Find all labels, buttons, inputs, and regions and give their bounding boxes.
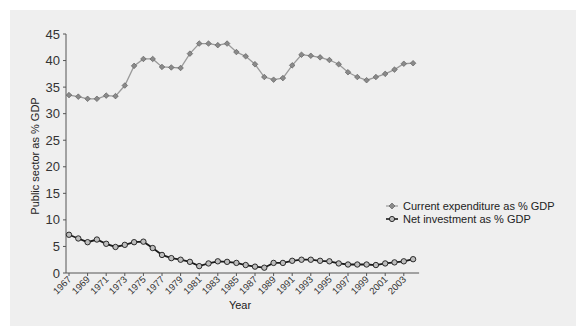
data-point xyxy=(224,259,229,264)
x-tick-label: 1973 xyxy=(106,274,129,297)
data-point xyxy=(113,244,118,249)
data-point xyxy=(410,256,415,261)
data-point xyxy=(104,241,109,246)
x-tick-label: 1995 xyxy=(311,274,334,297)
data-point xyxy=(103,93,109,99)
x-tick-label: 2001 xyxy=(367,274,390,297)
data-point xyxy=(243,262,248,267)
data-point xyxy=(299,257,304,262)
data-point xyxy=(215,259,220,264)
x-tick-label: 1999 xyxy=(348,274,371,297)
data-point xyxy=(410,60,416,66)
data-point xyxy=(178,257,183,262)
x-tick-label: 1979 xyxy=(162,274,185,297)
data-point xyxy=(169,255,174,260)
data-point xyxy=(271,260,276,265)
x-axis-title: Year xyxy=(229,299,252,311)
x-tick-label: 1993 xyxy=(292,274,315,297)
data-point xyxy=(150,245,155,250)
data-point xyxy=(355,74,361,80)
data-point xyxy=(271,77,277,83)
data-point xyxy=(141,239,146,244)
data-point xyxy=(159,252,164,257)
y-tick-label: 30 xyxy=(46,106,60,121)
legend: Current expenditure as % GDP Net investm… xyxy=(386,200,555,225)
data-point xyxy=(364,262,369,267)
data-point xyxy=(252,264,257,269)
y-tick-label: 0 xyxy=(53,266,60,281)
x-tick-label: 1987 xyxy=(237,274,260,297)
data-point xyxy=(308,53,314,59)
data-point xyxy=(85,239,90,244)
x-axis: 1967196919711973197519771979198119831985… xyxy=(51,273,419,296)
data-point xyxy=(206,261,211,266)
x-tick-label: 1983 xyxy=(199,274,222,297)
x-tick-label: 1989 xyxy=(255,274,278,297)
data-point xyxy=(215,42,221,48)
circle-marker-icon xyxy=(389,216,394,221)
data-point xyxy=(373,74,379,80)
data-point xyxy=(94,237,99,242)
y-tick-label: 35 xyxy=(46,80,60,95)
diamond-marker-icon xyxy=(389,203,395,209)
data-point xyxy=(131,239,136,244)
y-tick-label: 25 xyxy=(46,133,60,148)
data-point xyxy=(327,259,332,264)
x-tick-label: 1991 xyxy=(274,274,297,297)
series-current-expenditure xyxy=(66,41,416,102)
data-point xyxy=(197,263,202,268)
data-point xyxy=(364,77,370,83)
data-point xyxy=(336,261,341,266)
data-point xyxy=(234,260,239,265)
data-point xyxy=(187,259,192,264)
x-tick-label: 1977 xyxy=(144,274,167,297)
y-tick-label: 10 xyxy=(46,212,60,227)
y-tick-label: 5 xyxy=(53,239,60,254)
data-point xyxy=(383,261,388,266)
legend-label-current-expenditure: Current expenditure as % GDP xyxy=(403,200,555,212)
x-tick-label: 2003 xyxy=(385,274,408,297)
y-tick-label: 15 xyxy=(46,186,60,201)
y-tick-label: 20 xyxy=(46,159,60,174)
data-point xyxy=(290,258,295,263)
x-tick-label: 1969 xyxy=(69,274,92,297)
legend-label-net-investment: Net investment as % GDP xyxy=(403,213,531,225)
data-point xyxy=(382,71,388,77)
line-chart: 051015202530354045 196719691971197319751… xyxy=(0,0,585,336)
x-tick-label: 1981 xyxy=(181,274,204,297)
data-point xyxy=(345,262,350,267)
data-point xyxy=(327,57,333,63)
y-tick-label: 45 xyxy=(46,27,60,42)
data-point xyxy=(66,92,72,98)
data-point xyxy=(76,236,81,241)
data-point xyxy=(317,55,323,61)
x-tick-label: 1971 xyxy=(88,274,111,297)
data-point xyxy=(280,260,285,265)
x-tick-label: 1985 xyxy=(218,274,241,297)
data-point xyxy=(392,260,397,265)
data-point xyxy=(308,257,313,262)
series-net-investment xyxy=(66,232,416,270)
legend-item-current-expenditure: Current expenditure as % GDP xyxy=(386,200,555,212)
x-tick-label: 1975 xyxy=(125,274,148,297)
data-point xyxy=(206,41,212,47)
x-tick-label: 1997 xyxy=(330,274,353,297)
data-point xyxy=(317,258,322,263)
data-point xyxy=(401,259,406,264)
data-point xyxy=(355,262,360,267)
legend-item-net-investment: Net investment as % GDP xyxy=(386,213,531,225)
data-point xyxy=(122,242,127,247)
y-axis: 051015202530354045 xyxy=(46,27,66,281)
data-point xyxy=(76,94,82,100)
data-point xyxy=(262,265,267,270)
y-axis-title: Public sector as % GDP xyxy=(29,97,41,214)
data-point xyxy=(169,65,175,71)
data-point xyxy=(94,96,100,102)
y-tick-label: 40 xyxy=(46,53,60,68)
data-point xyxy=(373,262,378,267)
series-layer xyxy=(66,41,416,271)
data-point xyxy=(85,96,91,102)
data-point xyxy=(66,232,71,237)
